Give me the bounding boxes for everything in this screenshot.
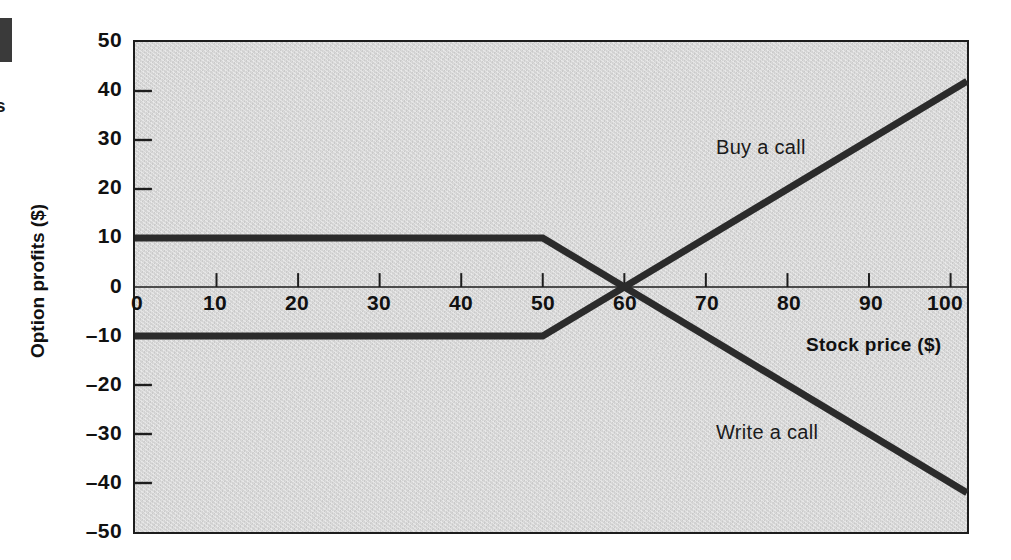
y-tick-n20: –20: [52, 372, 122, 396]
annotation-buy-a-call: Buy a call: [716, 136, 806, 159]
y-tick-10: 10: [52, 224, 122, 248]
cropped-caption-letter: s: [0, 96, 7, 116]
y-axis-tick-labels: 50 40 30 20 10 0 –10 –20 –30 –40 –50: [48, 0, 122, 560]
x-tick-40: 40: [449, 291, 473, 315]
x-tick-100: 100: [927, 291, 963, 315]
y-tick-40: 40: [52, 77, 122, 101]
x-tick-60: 60: [613, 291, 637, 315]
x-tick-90: 90: [859, 291, 883, 315]
y-tick-n30: –30: [52, 421, 122, 445]
y-tick-n40: –40: [52, 470, 122, 494]
x-tick-30: 30: [367, 291, 391, 315]
y-tick-30: 30: [52, 126, 122, 150]
x-tick-10: 10: [203, 291, 227, 315]
page-edge-artifact: [0, 18, 14, 62]
x-tick-80: 80: [777, 291, 801, 315]
y-tick-n50: –50: [52, 519, 122, 543]
y-tick-50: 50: [52, 28, 122, 52]
x-tick-50: 50: [531, 291, 555, 315]
x-axis-tick-labels: 0 10 20 30 40 50 60 70 80 90 100: [133, 291, 969, 321]
x-tick-20: 20: [285, 291, 309, 315]
x-axis-title: Stock price ($): [806, 334, 941, 356]
series-line-write-a-call: [135, 238, 967, 493]
plot-svg: [135, 42, 967, 532]
x-axis-ticks: [217, 273, 951, 287]
y-tick-20: 20: [52, 175, 122, 199]
y-axis-title: Option profits ($): [27, 151, 49, 411]
x-tick-70: 70: [695, 291, 719, 315]
y-tick-0: 0: [52, 274, 122, 298]
plot-area: Buy a call Write a call: [133, 40, 969, 534]
y-tick-n10: –10: [52, 323, 122, 347]
annotation-write-a-call: Write a call: [716, 421, 818, 444]
x-tick-0: 0: [131, 291, 143, 315]
option-profit-chart-figure: s 50 40 30 20 10 0 –10 –20 –30 –40 –50 O…: [0, 0, 1011, 560]
